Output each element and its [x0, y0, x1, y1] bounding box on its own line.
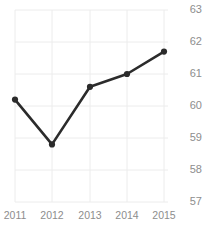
- plot-area: [0, 0, 204, 226]
- x-tick-label-2012: 2012: [35, 209, 69, 221]
- data-point: [12, 97, 18, 103]
- data-point: [49, 141, 55, 147]
- x-tick-label-2014: 2014: [110, 209, 144, 221]
- x-tick-label-2013: 2013: [73, 209, 107, 221]
- data-point: [124, 71, 130, 77]
- y-tick-label-63: 63: [176, 3, 202, 15]
- data-point: [87, 84, 93, 90]
- y-tick-label-61: 61: [176, 67, 202, 79]
- y-tick-label-60: 60: [176, 99, 202, 111]
- y-tick-label-57: 57: [176, 195, 202, 207]
- x-tick-label-2011: 2011: [0, 209, 32, 221]
- y-tick-label-58: 58: [176, 163, 202, 175]
- y-tick-label-59: 59: [176, 131, 202, 143]
- y-tick-label-62: 62: [176, 35, 202, 47]
- freedom-trend-chart: Freedom Trend 6: [0, 0, 204, 226]
- x-tick-label-2015: 2015: [147, 209, 181, 221]
- horizontal-gridlines: [15, 10, 168, 202]
- data-point: [161, 49, 167, 55]
